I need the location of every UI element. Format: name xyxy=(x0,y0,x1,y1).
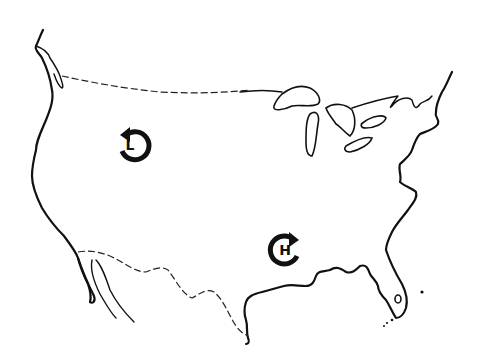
high-pressure-symbol: H xyxy=(270,232,299,264)
pacific-coastline xyxy=(32,30,91,302)
lake-okeechobee xyxy=(395,295,401,303)
northern-border xyxy=(240,91,282,93)
florida-keys-dot xyxy=(391,319,394,322)
low-pressure-symbol: L xyxy=(120,127,149,160)
lake-ontario xyxy=(361,116,386,128)
lake-superior xyxy=(274,86,320,109)
mexico-border xyxy=(78,251,248,336)
lake-huron xyxy=(326,104,355,136)
gulf-of-california xyxy=(96,260,134,322)
canada-border xyxy=(62,76,250,93)
florida-keys-dot xyxy=(383,325,385,327)
florida-keys-dot xyxy=(386,322,388,324)
high-pressure-label: H xyxy=(279,242,291,258)
us-outline-map: L H xyxy=(0,0,477,363)
lake-michigan xyxy=(306,112,319,156)
lake-erie xyxy=(345,137,372,152)
low-pressure-label: L xyxy=(126,137,135,153)
northeast-border xyxy=(352,96,432,108)
florida-coastline xyxy=(245,250,407,344)
bahamas-dot xyxy=(420,290,423,293)
baja-california xyxy=(91,260,116,318)
